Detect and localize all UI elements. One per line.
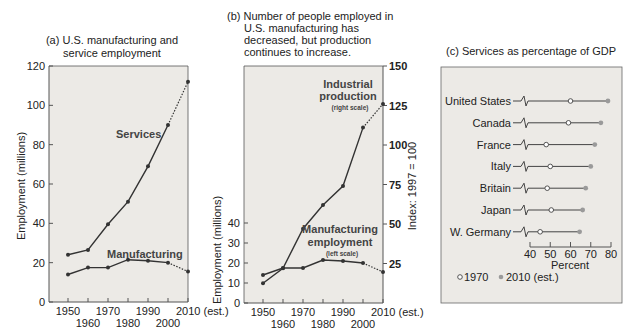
y-tick-label: 40 (33, 217, 45, 229)
country-label: Britain (480, 182, 511, 194)
y-tick-label: 20 (33, 257, 45, 269)
country-label: W. Germany (450, 226, 512, 238)
chart-a-manufacturing-service-employment: (a) U.S. manufacturing and service emplo… (15, 34, 229, 329)
point-2010 (598, 120, 603, 125)
manufacturing-point (166, 261, 170, 265)
x-tick-label: 1960 (271, 318, 295, 330)
industrial-production-point (321, 203, 325, 207)
point-1970 (538, 230, 543, 235)
services-point (166, 123, 170, 127)
point-1970 (544, 142, 549, 147)
y-tick-label-left: 40 (228, 217, 240, 229)
chart-b-x-ticks: 1950196019701980199020002010 (est.) (251, 299, 424, 330)
chart-b-manufacturing-label-2: employment (308, 236, 373, 248)
manufacturing-employment-point (301, 266, 305, 270)
legend-2010-marker (499, 275, 504, 280)
chart-c-x-label: Percent (551, 259, 589, 271)
services-point (86, 248, 90, 252)
x-tick-label: 1960 (76, 317, 100, 329)
manufacturing-point (86, 266, 90, 270)
point-1970 (548, 164, 553, 169)
chart-b-y-label-right: Index: 1997 = 100 (406, 142, 418, 230)
y-tick-label-left: 0 (234, 297, 240, 309)
industrial-production-point (361, 126, 365, 130)
chart-b-title-line1: (b) Number of people employed in (227, 10, 393, 22)
point-2010 (577, 229, 582, 234)
manufacturing-point (186, 270, 190, 274)
chart-c-services-percent-gdp: (c) Services as percentage of GDP United… (441, 45, 622, 303)
industrial-production-point (261, 281, 265, 285)
services-point (146, 164, 150, 168)
point-2010 (588, 164, 593, 169)
chart-a-x-ticks: 1950196019701980199020002010 (est.) (56, 298, 229, 329)
x-tick-label: 1990 (136, 305, 160, 317)
manufacturing-employment-point (361, 261, 365, 265)
chart-a-plot-area (49, 66, 188, 302)
y-tick-label-left: 30 (228, 237, 240, 249)
chart-b-industrial-sublabel: (right scale) (332, 104, 369, 112)
x-tick-label: 1980 (311, 318, 335, 330)
x-tick-label: 80 (605, 248, 617, 260)
y-tick-label: 0 (39, 296, 45, 308)
country-label: Japan (481, 204, 511, 216)
x-tick-label: 2010 (est.) (176, 305, 229, 317)
industrial-production-point (381, 102, 385, 106)
chart-b-industrial-label-1: Industrial (323, 78, 373, 90)
manufacturing-point (66, 272, 70, 276)
chart-b-y-ticks-right: 255075100125150 (383, 60, 407, 270)
point-1970 (568, 99, 573, 104)
chart-b-manufacturing-sublabel: (left scale) (326, 250, 358, 258)
manufacturing-employment-point (341, 259, 345, 263)
point-1970 (566, 121, 571, 126)
chart-a-title-line2: service employment (63, 47, 161, 59)
point-1970 (549, 208, 554, 213)
chart-c-title: (c) Services as percentage of GDP (446, 45, 616, 57)
chart-a-y-label: Employment (millions) (15, 132, 27, 240)
chart-b-y-label-left: Employment (millions) (211, 196, 223, 304)
services-point (186, 80, 190, 84)
x-tick-label: 1950 (251, 306, 275, 318)
country-label: Italy (491, 160, 512, 172)
legend-1970-marker (458, 275, 463, 280)
manufacturing-employment-point (281, 266, 285, 270)
y-tick-label-left: 10 (228, 277, 240, 289)
chart-a-services-label: Services (116, 128, 161, 140)
x-tick-label: 1980 (116, 317, 140, 329)
chart-b-manufacturing-vs-production: (b) Number of people employed in U.S. ma… (211, 10, 424, 330)
y-tick-label-right: 50 (389, 218, 401, 230)
manufacturing-employment-point (381, 270, 385, 274)
legend-1970-label: 1970 (464, 271, 488, 283)
y-tick-label: 120 (27, 60, 45, 72)
x-tick-label: 2000 (156, 317, 180, 329)
y-tick-label-right: 25 (389, 258, 401, 270)
country-label: United States (445, 95, 512, 107)
country-label: France (477, 139, 511, 151)
services-point (66, 253, 70, 257)
chart-b-industrial-label-2: production (319, 90, 377, 102)
chart-b-title-line2: U.S. manufacturing has (244, 22, 359, 34)
y-tick-label-right: 75 (389, 179, 401, 191)
chart-a-title-line1: (a) U.S. manufacturing and (46, 34, 178, 46)
figure: (a) U.S. manufacturing and service emplo… (0, 0, 642, 331)
chart-b-title-line3: decreased, but production (244, 34, 371, 46)
x-tick-label: 1970 (96, 305, 120, 317)
manufacturing-point (106, 266, 110, 270)
x-tick-label: 1990 (331, 306, 355, 318)
manufacturing-employment-point (321, 258, 325, 262)
x-tick-label: 1950 (56, 305, 80, 317)
y-tick-label: 100 (27, 99, 45, 111)
x-tick-label: 1970 (291, 306, 315, 318)
chart-b-title-line4: continues to increase. (244, 46, 351, 58)
manufacturing-employment-point (261, 273, 265, 277)
y-tick-label-right: 125 (389, 100, 407, 112)
x-tick-label: 2000 (351, 318, 375, 330)
chart-a-manufacturing-label: Manufacturing (107, 248, 183, 260)
chart-c-legend: 1970 2010 (est.) (458, 271, 559, 283)
y-tick-label-left: 20 (228, 257, 240, 269)
legend-2010-label: 2010 (est.) (506, 271, 559, 283)
point-2010 (592, 142, 597, 147)
point-1970 (545, 186, 550, 191)
country-label: Canada (472, 117, 511, 129)
y-tick-label: 80 (33, 139, 45, 151)
x-tick-label: 2010 (est.) (371, 306, 424, 318)
